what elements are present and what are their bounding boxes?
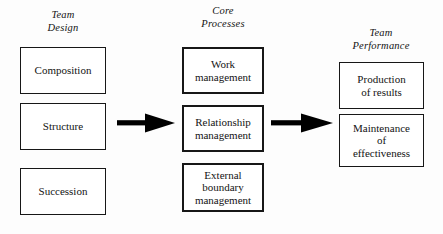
column-header-team-performance: Team Performance xyxy=(335,27,427,52)
box-work-management: Work management xyxy=(182,47,264,94)
box-maintenance-of-effectiveness: Maintenance of effectiveness xyxy=(339,114,424,167)
right-arrow-icon xyxy=(117,112,175,134)
box-external-boundary-management: External boundary management xyxy=(182,163,264,212)
arrow-team-design-to-core-processes xyxy=(117,112,175,134)
box-composition: Composition xyxy=(20,47,106,94)
column-header-core-processes: Core Processes xyxy=(182,5,264,30)
box-relationship-management: Relationship management xyxy=(182,105,264,152)
box-succession: Succession xyxy=(20,168,106,215)
arrow-core-processes-to-team-performance xyxy=(271,112,333,134)
column-header-team-design: Team Design xyxy=(20,9,106,34)
right-arrow-icon xyxy=(271,112,333,134)
box-production-of-results: Production of results xyxy=(339,62,424,109)
team-effectiveness-diagram: Team Design Core Processes Team Performa… xyxy=(0,0,443,234)
box-structure: Structure xyxy=(20,103,106,150)
